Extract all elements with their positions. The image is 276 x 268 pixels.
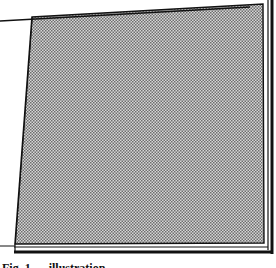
shaded-page bbox=[15, 4, 264, 244]
figure-caption: Fig. 1 — illustration bbox=[2, 257, 276, 268]
illustration bbox=[0, 0, 276, 268]
